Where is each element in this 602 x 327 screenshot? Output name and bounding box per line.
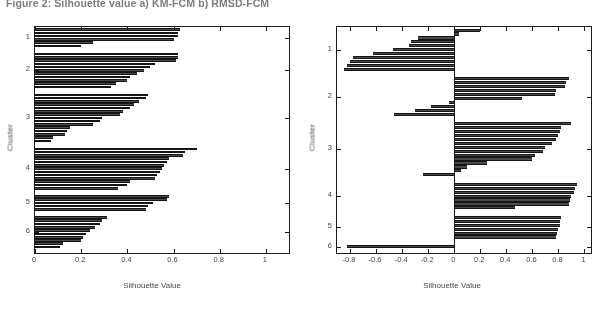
x-axis-tick xyxy=(428,27,429,31)
silhouette-bar xyxy=(393,48,454,51)
silhouette-bar xyxy=(35,72,137,75)
y-axis-tick-label: 4 xyxy=(8,163,30,172)
silhouette-bar xyxy=(454,224,560,227)
x-axis-title-a: Silhouette Value xyxy=(4,281,300,290)
x-axis-tick xyxy=(376,249,377,253)
silhouette-bar xyxy=(454,187,575,190)
silhouette-bar xyxy=(431,105,454,108)
silhouette-bar xyxy=(454,220,560,223)
silhouette-bar xyxy=(35,82,116,85)
silhouette-bar xyxy=(35,97,146,100)
silhouette-bar xyxy=(454,202,569,205)
x-axis-tick xyxy=(35,27,36,31)
y-axis-tick xyxy=(337,149,341,150)
x-axis-title-b: Silhouette Value xyxy=(304,281,600,290)
silhouette-bar xyxy=(35,126,70,129)
silhouette-bar xyxy=(35,100,139,103)
silhouette-bar xyxy=(35,133,65,136)
silhouette-bar xyxy=(35,59,176,62)
silhouette-bar xyxy=(35,94,148,97)
silhouette-bar xyxy=(454,195,571,198)
x-axis-tick xyxy=(558,249,559,253)
y-axis-tick xyxy=(587,149,591,150)
x-axis-tick-label: 0.8 xyxy=(199,255,239,264)
x-axis-tick xyxy=(454,249,455,253)
silhouette-bar xyxy=(35,136,53,139)
x-axis-tick-label: 0 xyxy=(14,255,54,264)
x-axis-tick-label: 1 xyxy=(563,255,602,264)
x-axis-tick xyxy=(402,249,403,253)
silhouette-bar xyxy=(418,36,454,39)
x-axis-tick xyxy=(480,27,481,31)
x-axis-tick xyxy=(480,249,481,253)
silhouette-plot-b: Silhouette Value Cluster -0.8-0.6-0.4-0.… xyxy=(304,22,600,294)
plot-area-b xyxy=(337,27,591,253)
silhouette-bar xyxy=(35,28,180,31)
silhouette-bar xyxy=(35,35,178,38)
y-axis-tick-label: 3 xyxy=(310,143,332,152)
silhouette-bar xyxy=(454,157,532,160)
silhouette-bar xyxy=(454,191,574,194)
y-axis-tick xyxy=(587,97,591,98)
silhouette-bar xyxy=(35,167,162,170)
silhouette-bar xyxy=(35,157,169,160)
x-axis-tick xyxy=(220,249,221,253)
x-axis-tick xyxy=(350,249,351,253)
y-axis-tick xyxy=(337,247,341,248)
silhouette-bar xyxy=(409,44,455,47)
x-axis-tick xyxy=(127,27,128,31)
silhouette-bar xyxy=(454,85,565,88)
x-axis-tick xyxy=(266,27,267,31)
y-axis-tick xyxy=(587,247,591,248)
y-axis-tick xyxy=(285,232,289,233)
y-axis-title-a: Cluster xyxy=(6,118,15,158)
x-axis-tick xyxy=(220,27,221,31)
x-axis-tick xyxy=(81,27,82,31)
silhouette-bar xyxy=(454,150,543,153)
x-axis-tick xyxy=(402,27,403,31)
silhouette-bar xyxy=(35,110,123,113)
silhouette-bar xyxy=(35,63,155,66)
silhouette-bar xyxy=(454,122,571,125)
silhouette-bar xyxy=(35,151,185,154)
silhouette-bar xyxy=(415,109,454,112)
silhouette-bar xyxy=(35,130,67,133)
y-axis-tick xyxy=(285,38,289,39)
silhouette-bar xyxy=(35,123,93,126)
silhouette-bar xyxy=(454,165,467,168)
silhouette-bar xyxy=(454,146,545,149)
silhouette-bar xyxy=(454,142,552,145)
silhouette-bar xyxy=(454,216,561,219)
silhouette-bar xyxy=(35,184,127,187)
silhouette-bar xyxy=(35,120,100,123)
y-axis-tick xyxy=(337,196,341,197)
silhouette-bar xyxy=(454,228,558,231)
silhouette-bar xyxy=(35,233,86,236)
plot-frame-b xyxy=(336,26,592,254)
silhouette-bar xyxy=(454,126,561,129)
silhouette-bar xyxy=(35,226,95,229)
y-axis-tick-label: 2 xyxy=(310,91,332,100)
silhouette-bar xyxy=(454,93,554,96)
silhouette-bar xyxy=(454,89,556,92)
figure-caption: Figure 2: Silhouette value a) KM-FCM b) … xyxy=(6,0,596,11)
silhouette-bar xyxy=(35,164,164,167)
y-axis-tick xyxy=(587,50,591,51)
silhouette-bar xyxy=(373,52,454,55)
y-axis-tick xyxy=(35,38,39,39)
silhouette-bar xyxy=(35,79,127,82)
y-axis-tick-label: 1 xyxy=(8,32,30,41)
silhouette-bar xyxy=(35,171,160,174)
x-axis-tick-label: 0.6 xyxy=(153,255,193,264)
silhouette-bar xyxy=(35,239,81,242)
silhouette-bar xyxy=(35,45,81,48)
silhouette-bar xyxy=(454,183,576,186)
x-axis-tick xyxy=(350,27,351,31)
silhouette-bar xyxy=(347,64,454,67)
silhouette-bar xyxy=(35,38,174,41)
zero-reference-line xyxy=(454,27,455,253)
x-axis-tick xyxy=(584,27,585,31)
y-axis-tick-label: 5 xyxy=(8,197,30,206)
y-axis-tick-label: 5 xyxy=(310,221,332,230)
silhouette-bar xyxy=(454,154,535,157)
